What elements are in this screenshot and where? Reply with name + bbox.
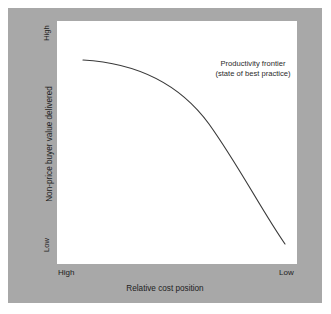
x-axis-tick-low: Low — [279, 268, 294, 277]
x-axis-tick-high: High — [58, 268, 74, 277]
y-axis-title: Non-price buyer value delivered — [44, 64, 56, 224]
plot-area: Productivity frontier (state of best pra… — [57, 21, 297, 264]
productivity-frontier-curve — [57, 21, 297, 264]
annotation-line-2: (state of best practice) — [203, 69, 303, 79]
annotation-line-1: Productivity frontier — [203, 59, 303, 69]
y-axis-tick-low: Low — [42, 233, 52, 257]
y-axis-tick-high: High — [42, 21, 52, 45]
x-axis-title: Relative cost position — [8, 284, 322, 293]
chart-figure: Productivity frontier (state of best pra… — [0, 0, 331, 314]
chart-panel: Productivity frontier (state of best pra… — [8, 8, 322, 303]
productivity-frontier-annotation: Productivity frontier (state of best pra… — [203, 59, 303, 78]
